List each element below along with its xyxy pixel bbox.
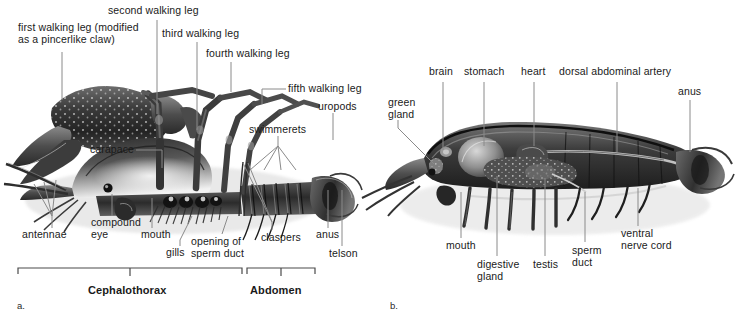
label-mouth-b: mouth xyxy=(446,240,476,252)
figure-artwork xyxy=(0,0,746,320)
label-testis: testis xyxy=(533,259,558,271)
crayfish-internal-illustration xyxy=(362,122,734,235)
label-first-walking-leg: first walking leg (modified as a pincerl… xyxy=(18,22,139,45)
label-fourth-walking-leg: fourth walking leg xyxy=(206,48,290,60)
label-telson: telson xyxy=(329,248,358,260)
bracket-label-abdomen: Abdomen xyxy=(250,285,302,297)
bracket-label-cephalothorax: Cephalothorax xyxy=(88,285,166,297)
label-heart: heart xyxy=(521,66,545,78)
label-mouth-a: mouth xyxy=(141,229,171,241)
label-antennae: antennae xyxy=(22,229,67,241)
label-green-gland: green gland xyxy=(388,97,415,120)
label-gills: gills xyxy=(166,247,185,259)
label-sperm-duct: sperm duct xyxy=(572,245,602,268)
panel-a-id: a. xyxy=(17,300,25,311)
label-dorsal-abdominal-artery: dorsal abdominal artery xyxy=(559,66,671,78)
label-fifth-walking-leg: fifth walking leg xyxy=(288,83,362,95)
label-anus-a: anus xyxy=(316,229,339,241)
label-digestive-gland: digestive gland xyxy=(477,259,519,282)
label-compound-eye: compound eye xyxy=(91,217,141,240)
label-uropods: uropods xyxy=(318,101,357,113)
crayfish-anatomy-figure: first walking leg (modified as a pincerl… xyxy=(0,0,746,320)
label-carapace: carapace xyxy=(90,144,134,156)
panel-a-brackets xyxy=(18,268,315,276)
crayfish-external-illustration xyxy=(4,86,362,240)
label-second-walking-leg: second walking leg xyxy=(108,5,199,17)
label-ventral-nerve-cord: ventral nerve cord xyxy=(621,228,672,251)
label-stomach: stomach xyxy=(464,66,504,78)
label-swimmerets: swimmerets xyxy=(249,124,306,136)
label-brain: brain xyxy=(429,66,453,78)
panel-b-id: b. xyxy=(390,300,398,311)
label-opening-of-sperm-duct: opening of sperm duct xyxy=(191,236,244,259)
label-claspers: claspers xyxy=(261,232,301,244)
label-anus-b: anus xyxy=(678,86,701,98)
label-third-walking-leg: third walking leg xyxy=(162,28,239,40)
